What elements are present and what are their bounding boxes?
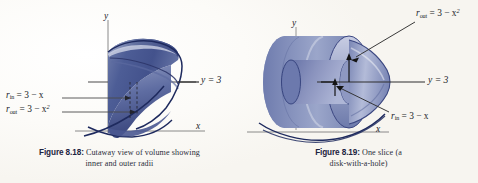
r-in-expression: = 3 − x xyxy=(399,111,428,121)
figure-8-18: y x y = 3 rin = 3 − x rout = 3 − x2 Figu… xyxy=(0,0,239,183)
caption-text-1: One slice (a xyxy=(362,148,402,157)
pointer-line-r-out xyxy=(356,22,415,57)
caption-line-1: Figure 8.18: Cutaway view of volume show… xyxy=(0,148,239,159)
label-r-out: rout = 3 − x2 xyxy=(416,8,460,19)
figure-8-19: y x y = 3 rout = 3 − x2 rin = 3 − x Figu… xyxy=(239,0,478,183)
r-in-expression: = 3 − x xyxy=(14,90,43,100)
y-axis-label: y xyxy=(292,19,296,28)
figure-8-19-caption: Figure 8.19: One slice (a disk-with-a-ho… xyxy=(239,148,478,169)
caption-line-2: disk-with-a-hole) xyxy=(239,159,478,170)
figure-number: Figure 8.19: xyxy=(315,148,360,157)
figure-number: Figure 8.18: xyxy=(39,148,84,157)
x-axis-label: x xyxy=(196,122,200,131)
r-out-expression: = 3 − x xyxy=(427,8,456,18)
label-r-out: rout = 3 − x2 xyxy=(6,104,50,115)
y-axis-label: y xyxy=(104,12,108,21)
label-r-in: rin = 3 − x xyxy=(6,91,44,100)
figure-8-18-caption: Figure 8.18: Cutaway view of volume show… xyxy=(0,148,239,169)
label-y-equals-3: y = 3 xyxy=(201,75,221,85)
x-axis-label: x xyxy=(376,125,380,134)
r-out-exponent: 2 xyxy=(456,7,459,14)
label-r-in: rin = 3 − x xyxy=(391,112,429,121)
caption-line-1: Figure 8.19: One slice (a xyxy=(239,148,478,159)
r-out-exponent: 2 xyxy=(46,103,49,110)
caption-text-1: Cutaway view of volume showing xyxy=(86,148,200,157)
caption-line-2: inner and outer radii xyxy=(0,159,239,170)
label-y-equals-3: y = 3 xyxy=(428,75,448,85)
r-out-expression: = 3 − x xyxy=(17,104,46,114)
